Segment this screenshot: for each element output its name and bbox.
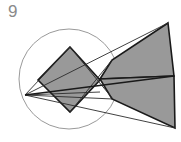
figure-number-label: 9 (8, 2, 17, 22)
figure-container: 9 (0, 0, 181, 142)
geometry-diagram (0, 0, 181, 142)
